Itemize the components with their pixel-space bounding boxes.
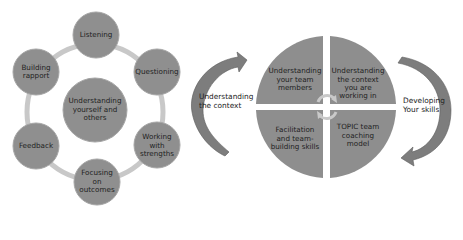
quadrant-circle <box>256 36 396 178</box>
right-arrow-label: Developing Your skills <box>403 96 449 114</box>
node-label-working-with-strengths: Working with strengths <box>137 132 177 160</box>
quadrant-label-team-members: Understanding your team members <box>268 64 322 96</box>
quadrant-label-facilitation: Facilitation and team-building skills <box>268 124 322 154</box>
node-label-feedback: Feedback <box>14 139 58 153</box>
node-label-listening: Listening <box>74 28 118 42</box>
quadrant-label-context: Understanding the context you are workin… <box>330 64 386 104</box>
center-label: Understanding yourself and others <box>64 94 126 126</box>
left-arrow-label: Understanding the context <box>199 92 251 110</box>
node-label-building-rapport: Building rapport <box>16 60 56 84</box>
quadrant-label-topic-model: TOPIC team coaching model <box>330 124 386 148</box>
node-label-questioning: Questioning <box>135 65 179 79</box>
node-label-focusing-on-outcomes: Focusing on outcomes <box>77 170 117 194</box>
